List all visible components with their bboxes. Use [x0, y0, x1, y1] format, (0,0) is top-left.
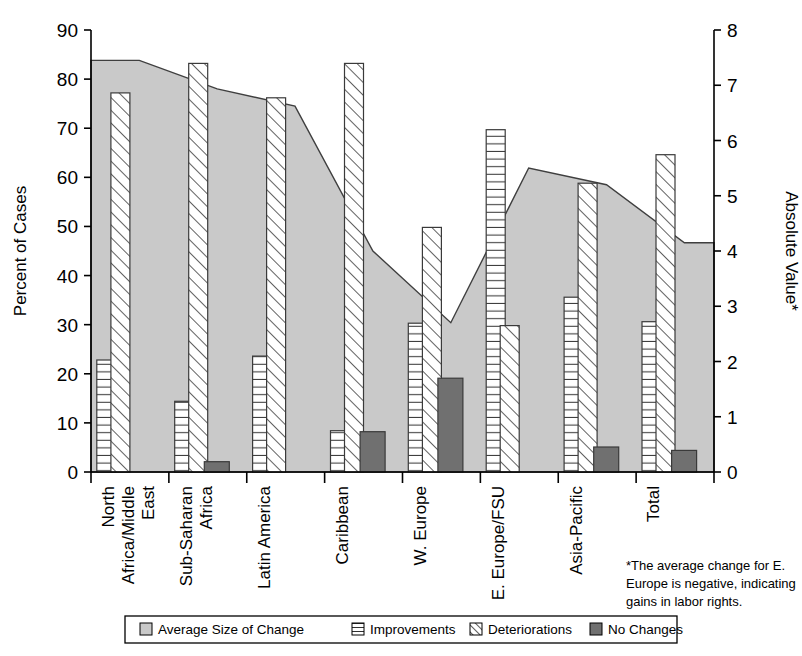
bar-deteriorations-5	[500, 326, 519, 472]
x-axis-category-label: Sub-Saharan	[177, 486, 196, 586]
left-axis-tick-label: 60	[57, 167, 78, 188]
left-axis-tick-label: 90	[57, 20, 78, 41]
x-axis-category-label: Total	[644, 486, 663, 522]
left-axis-tick-label: 40	[57, 266, 78, 287]
left-axis-tick-label: 70	[57, 118, 78, 139]
bar-deteriorations-3	[345, 63, 364, 472]
left-axis-tick-label: 0	[67, 462, 78, 483]
right-axis-tick-label: 5	[727, 186, 738, 207]
right-axis-tick-label: 3	[727, 296, 738, 317]
left-axis-tick-label: 30	[57, 315, 78, 336]
x-axis-category-label: W. Europe	[411, 486, 430, 565]
bar-deteriorations-0	[111, 93, 130, 472]
right-axis-tick-label: 2	[727, 352, 738, 373]
x-axis-category-label: Caribbean	[333, 486, 352, 564]
bar-no-changes-7	[672, 450, 697, 472]
x-axis-category-label: East	[139, 486, 158, 520]
bar-no-changes-1	[204, 462, 229, 472]
legend-swatch-gray-solid-swatch	[140, 623, 152, 635]
footnote-line: *The average change for E.	[626, 558, 785, 573]
footnote-line: gains in labor rights.	[626, 594, 742, 609]
x-axis-category-label: E. Europe/FSU	[489, 486, 508, 600]
right-axis-tick-label: 4	[727, 241, 738, 262]
right-axis-title: Absolute Value*	[782, 191, 801, 311]
right-axis-tick-label: 1	[727, 407, 738, 428]
legend-swatch-diagonal-lines-swatch	[470, 623, 482, 635]
footnote-line: Europe is negative, indicating	[626, 576, 796, 591]
left-axis-tick-label: 10	[57, 413, 78, 434]
right-axis-tick-label: 0	[727, 462, 738, 483]
x-axis-category-label: Latin America	[255, 485, 274, 589]
legend-swatch-dark-gray-swatch	[590, 623, 602, 635]
bar-no-changes-4	[438, 378, 463, 472]
labor-rights-chart: 0102030405060708090 Percent of Cases 012…	[0, 0, 802, 656]
left-axis-tick-label: 80	[57, 69, 78, 90]
left-axis-tick-label: 20	[57, 364, 78, 385]
bar-no-changes-6	[594, 447, 619, 472]
legend-label: Improvements	[370, 622, 456, 637]
left-axis-title: Percent of Cases	[11, 186, 30, 316]
legend-label: Average Size of Change	[158, 622, 304, 637]
legend-label: Deteriorations	[488, 622, 572, 637]
x-axis-category-label: Africa/Middle	[119, 486, 138, 584]
bar-deteriorations-2	[267, 98, 286, 472]
right-axis-tick-label: 6	[727, 131, 738, 152]
x-axis-category-label: Africa	[197, 485, 216, 529]
legend-swatch-horizontal-lines-swatch	[352, 623, 364, 635]
bar-deteriorations-1	[189, 63, 208, 472]
legend-label: No Changes	[608, 622, 683, 637]
bar-deteriorations-7	[656, 155, 675, 472]
right-axis-tick-label: 7	[727, 75, 738, 96]
right-axis-tick-label: 8	[727, 20, 738, 41]
left-axis-tick-label: 50	[57, 216, 78, 237]
chart-container: 0102030405060708090 Percent of Cases 012…	[0, 0, 802, 656]
x-axis-category-label: North	[99, 486, 118, 528]
bar-deteriorations-6	[578, 183, 597, 472]
x-axis-category-label: Asia-Pacific	[567, 486, 586, 575]
bar-no-changes-3	[360, 432, 385, 472]
